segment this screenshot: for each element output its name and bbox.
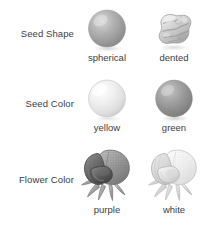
- caption-spherical: spherical: [74, 52, 140, 64]
- trait-table: Seed Shape: [0, 0, 213, 234]
- trait-cell-purple: purple: [74, 146, 140, 216]
- seed-spherical-icon: [74, 8, 140, 52]
- caption-white: white: [141, 204, 207, 216]
- trait-cell-yellow: yellow: [74, 78, 140, 134]
- caption-dented: dented: [141, 52, 207, 64]
- flower-purple-icon: [74, 146, 140, 204]
- caption-purple: purple: [74, 204, 140, 216]
- caption-green: green: [141, 122, 207, 134]
- trait-cell-dented: dented: [141, 8, 207, 64]
- row-label-flower-color: Flower Color: [0, 174, 74, 185]
- caption-yellow: yellow: [74, 122, 140, 134]
- trait-row-flower-color: Flower Color: [0, 146, 213, 226]
- trait-row-seed-shape: Seed Shape: [0, 8, 213, 70]
- trait-cell-green: green: [141, 78, 207, 134]
- seed-green-icon: [141, 78, 207, 122]
- trait-cell-spherical: spherical: [74, 8, 140, 64]
- seed-yellow-icon: [74, 78, 140, 122]
- flower-white-icon: [141, 146, 207, 204]
- seed-dented-icon: [141, 8, 207, 52]
- trait-row-seed-color: Seed Color: [0, 78, 213, 140]
- row-label-seed-color: Seed Color: [0, 98, 74, 109]
- trait-cell-white: white: [141, 146, 207, 216]
- row-label-seed-shape: Seed Shape: [0, 28, 74, 39]
